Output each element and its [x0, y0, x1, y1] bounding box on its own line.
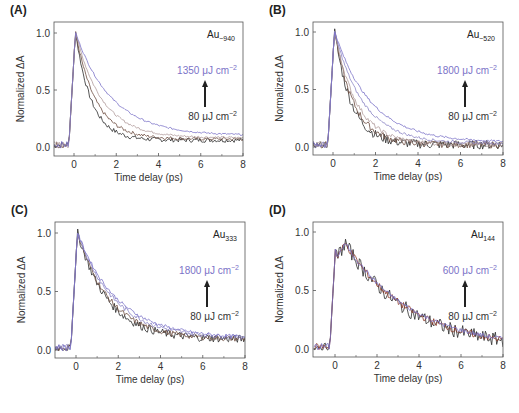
y-tick-label: 0.5 — [36, 85, 50, 96]
x-tick-label: 4 — [415, 158, 421, 169]
fluence-high-label: 600 μJ cm−2 — [443, 264, 497, 276]
x-tick-label: 6 — [458, 360, 464, 371]
x-tick-label: 2 — [373, 158, 379, 169]
fluence-low-label: 80 μJ cm−2 — [188, 110, 237, 122]
series-group — [312, 29, 503, 149]
plot-frame — [313, 222, 503, 357]
x-tick-label: 0 — [73, 361, 79, 372]
panel-d: (D)024680.00.51.0Time delay (ps)Normaliz… — [269, 203, 506, 384]
x-tick-label: 8 — [240, 159, 246, 170]
y-axis-label: Normalized ΔA — [15, 55, 26, 122]
figure: (A)024680.00.51.0Time delay (ps)Normaliz… — [0, 0, 519, 413]
panel-c: (C)024680.00.51.0Time delay (ps)Normaliz… — [11, 203, 248, 385]
y-axis-label: Normalized ΔA — [16, 256, 27, 323]
fluence-high-label: 1800 μJ cm−2 — [179, 264, 239, 276]
y-axis-label: Normalized ΔA — [274, 256, 285, 323]
panel-label: (B) — [269, 3, 286, 17]
series-group — [53, 32, 243, 149]
x-tick-label: 6 — [198, 159, 204, 170]
panel-a: (A)024680.00.51.0Time delay (ps)Normaliz… — [10, 3, 246, 183]
y-tick-label: 1.0 — [37, 228, 51, 239]
x-axis-label: Time delay (ps) — [114, 172, 183, 183]
x-tick-label: 4 — [156, 159, 162, 170]
data-series — [314, 244, 503, 350]
series-group — [314, 239, 503, 350]
fluence-high-label: 1800 μJ cm−2 — [437, 64, 497, 76]
x-tick-label: 2 — [115, 361, 121, 372]
panel-label: (C) — [11, 203, 28, 217]
series-group — [55, 229, 245, 351]
y-tick-label: 1.0 — [36, 28, 50, 39]
x-tick-label: 2 — [113, 159, 119, 170]
data-series — [53, 33, 243, 148]
x-tick-label: 6 — [458, 158, 464, 169]
y-axis-label: Normalized ΔA — [274, 55, 285, 122]
figure-canvas: (A)024680.00.51.0Time delay (ps)Normaliz… — [0, 0, 519, 413]
x-axis-label: Time delay (ps) — [374, 171, 443, 182]
y-tick-label: 0.0 — [295, 344, 309, 355]
x-axis-label: Time delay (ps) — [374, 373, 443, 384]
fluence-high-label: 1350 μJ cm−2 — [177, 64, 237, 76]
y-tick-label: 1.0 — [295, 27, 309, 38]
x-tick-label: 0 — [332, 360, 338, 371]
panel-label: (D) — [269, 203, 286, 217]
panel-b: (B)024680.00.51.0Time delay (ps)Normaliz… — [269, 3, 506, 182]
x-tick-label: 8 — [242, 361, 248, 372]
x-tick-label: 6 — [200, 361, 206, 372]
x-tick-label: 8 — [500, 360, 506, 371]
y-tick-label: 0.5 — [37, 286, 51, 297]
data-series — [55, 236, 245, 351]
y-tick-label: 1.0 — [295, 227, 309, 238]
x-tick-label: 4 — [158, 361, 164, 372]
sample-label: Au144 — [471, 229, 495, 242]
fluence-low-label: 80 μJ cm−2 — [190, 310, 239, 322]
x-tick-label: 0 — [71, 159, 77, 170]
x-tick-label: 8 — [500, 158, 506, 169]
x-axis-label: Time delay (ps) — [116, 374, 185, 385]
x-tick-label: 2 — [374, 360, 380, 371]
y-tick-label: 0.0 — [37, 345, 51, 356]
x-tick-label: 4 — [416, 360, 422, 371]
sample-label: Au333 — [213, 229, 237, 242]
data-series — [312, 32, 503, 148]
y-tick-label: 0.5 — [295, 84, 309, 95]
sample-label: Au~520 — [467, 29, 495, 42]
sample-label: Au~940 — [207, 29, 235, 42]
y-tick-label: 0.5 — [295, 285, 309, 296]
y-tick-label: 0.0 — [295, 142, 309, 153]
panel-label: (A) — [10, 3, 27, 17]
fluence-low-label: 80 μJ cm−2 — [448, 110, 497, 122]
y-tick-label: 0.0 — [36, 142, 50, 153]
x-tick-label: 0 — [330, 158, 336, 169]
fluence-low-label: 80 μJ cm−2 — [448, 310, 497, 322]
